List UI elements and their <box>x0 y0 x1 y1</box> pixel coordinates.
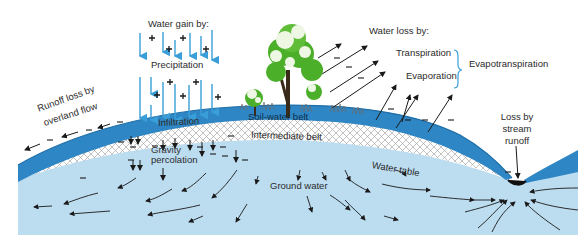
evapotranspiration-bracket <box>454 50 462 88</box>
label-loss-by: Loss by <box>493 112 541 123</box>
label-water-gain: Water gain by: <box>148 19 209 30</box>
label-percolation: percolation <box>151 155 197 166</box>
label-soil-water-belt: Soil-water belt <box>248 112 308 123</box>
label-evapotranspiration: Evapotranspiration <box>469 59 548 70</box>
label-precipitation: Precipitation <box>151 60 203 71</box>
large-tree <box>266 24 323 118</box>
label-runoff: runoff <box>493 136 541 147</box>
label-stream: stream <box>493 124 541 135</box>
label-evaporation: Evaporation <box>406 71 457 82</box>
label-infiltration: Infiltration <box>158 116 200 129</box>
stream-loss-arrow <box>516 146 518 178</box>
label-transpiration: Transpiration <box>396 48 451 59</box>
precipitation-arrows-upper <box>140 30 212 60</box>
label-ground-water: Ground water <box>270 181 328 192</box>
label-water-loss: Water loss by: <box>369 26 429 37</box>
